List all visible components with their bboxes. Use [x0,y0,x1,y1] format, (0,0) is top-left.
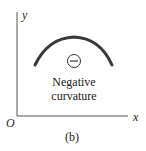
subfigure-label: (b) [65,130,79,144]
origin-label: O [6,116,15,130]
x-axis-label: x [132,110,139,124]
caption-line2: curvature [51,89,96,103]
y-axis-label: y [21,8,28,22]
curvature-diagram: y x O Negative curvature (b) [0,0,146,151]
caption-line1: Negative [52,75,95,89]
